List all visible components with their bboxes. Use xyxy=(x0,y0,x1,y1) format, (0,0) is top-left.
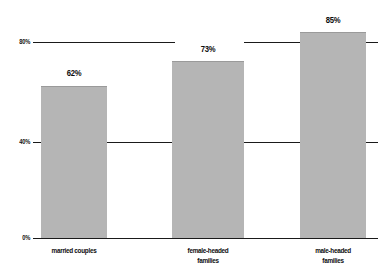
category-label-married-couples: married couples xyxy=(32,246,117,256)
category-label-female-headed-families-line2: families xyxy=(166,256,251,266)
y-axis-label-40: 40% xyxy=(5,138,30,145)
category-label-female-headed-families: female-headed families xyxy=(166,246,251,266)
category-label-male-headed-families-line2: families xyxy=(291,256,376,266)
gridline-40-tick-right xyxy=(366,142,378,143)
value-label-male-headed-families: 85% xyxy=(305,15,361,25)
bar-male-headed-families[interactable] xyxy=(300,32,366,238)
bar-female-headed-families[interactable] xyxy=(172,61,244,238)
plot-area: 80% 40% 0% 62% 73% 85% married couples f… xyxy=(0,0,384,280)
y-axis-label-0: 0% xyxy=(5,234,30,241)
category-label-married-couples-line1: married couples xyxy=(52,246,97,255)
gridline-80-tick-right xyxy=(366,42,378,43)
gridline-80-segment-mid xyxy=(244,42,300,43)
gridline-80-segment-left xyxy=(33,42,175,43)
category-label-female-headed-families-line1: female-headed xyxy=(188,246,229,255)
value-label-married-couples: 62% xyxy=(46,68,102,78)
bar-chart: 80% 40% 0% 62% 73% 85% married couples f… xyxy=(0,0,384,280)
value-label-female-headed-families: 73% xyxy=(177,44,238,54)
x-axis-baseline xyxy=(33,238,378,239)
gridline-40-segment-two xyxy=(244,142,300,143)
category-label-male-headed-families: male-headed families xyxy=(291,246,376,266)
category-label-male-headed-families-line1: male-headed xyxy=(315,246,351,255)
gridline-40-segment-one xyxy=(107,142,172,143)
y-axis-label-80: 80% xyxy=(5,38,30,45)
bar-married-couples[interactable] xyxy=(41,86,107,238)
